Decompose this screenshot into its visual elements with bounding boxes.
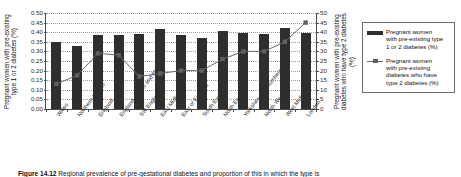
x-tick-mark — [274, 109, 275, 112]
y-tick-label-left: 0.25 — [31, 58, 43, 64]
y-tick-label-left: 0.20 — [31, 67, 43, 73]
figure-caption: Figure 14.12 Regional prevalence of pre-… — [18, 170, 448, 177]
line-marker — [117, 53, 121, 57]
chart-area: Pregnant women with pre-existing type 1 … — [0, 0, 461, 160]
x-tick-mark — [295, 109, 296, 112]
y-tick-label-left: 0.35 — [31, 39, 43, 45]
line-marker — [220, 57, 224, 61]
y-tick-label-left: 0.15 — [31, 77, 43, 83]
x-tick-mark — [88, 109, 89, 112]
y-tick-label-left: 0.05 — [31, 96, 43, 102]
x-tick-mark — [46, 109, 47, 112]
legend-item-label: Pregnant women with pre-existing type 1 … — [386, 28, 443, 50]
y-axis-title-right: Pregnant women with pre-existing diabete… — [333, 8, 355, 116]
line-marker — [200, 68, 204, 72]
x-tick-mark — [108, 109, 109, 112]
chart-legend: Pregnant women with pre-existing type 1 … — [362, 22, 455, 93]
legend-item-line: Pregnant women with pre-existing diabete… — [367, 57, 450, 86]
x-tick-mark — [67, 109, 68, 112]
y-tick-label-right: 10 — [320, 87, 327, 93]
line-marker — [137, 74, 141, 78]
line-path — [56, 23, 305, 84]
x-tick-mark — [212, 109, 213, 112]
legend-item-bar: Pregnant women with pre-existing type 1 … — [367, 28, 450, 50]
y-tick-label-right: 35 — [320, 39, 327, 45]
y-tick-label-right: 50 — [320, 10, 327, 16]
legend-bar-swatch-icon — [367, 28, 384, 40]
line-marker — [262, 49, 266, 53]
y-tick-label-right: 30 — [320, 48, 327, 54]
y-tick-label-left: 0.30 — [31, 48, 43, 54]
x-tick-mark — [171, 109, 172, 112]
y-tick-label-right: 45 — [320, 19, 327, 25]
y-tick-label-left: 0.40 — [31, 29, 43, 35]
y-tick-label-right: 0 — [320, 106, 323, 112]
x-tick-mark — [150, 109, 151, 112]
y-tick-label-right: 40 — [320, 29, 327, 35]
y-tick-label-right: 15 — [320, 77, 327, 83]
line-marker — [179, 68, 183, 72]
legend-item-label: Pregnant women with pre-existing diabete… — [386, 57, 439, 86]
y-axis-title-left: Pregnant women with pre-existing type 1 … — [3, 8, 18, 116]
line-marker — [158, 71, 162, 75]
line-marker — [283, 40, 287, 44]
y-tick-label-left: 0.45 — [31, 19, 43, 25]
y-tick-label-right: 25 — [320, 58, 327, 64]
x-tick-mark — [191, 109, 192, 112]
figure-number: Figure 14.12 — [18, 170, 56, 177]
line-marker — [303, 20, 307, 24]
line-marker — [75, 73, 79, 77]
figure-caption-text: Regional prevalence of pre-gestational d… — [56, 170, 319, 177]
y-tick-label-left: 0.50 — [31, 10, 43, 16]
x-tick-mark — [254, 109, 255, 112]
line-marker — [54, 82, 58, 86]
line-marker — [241, 49, 245, 53]
y-tick-label-right: 20 — [320, 67, 327, 73]
y-tick-label-left: 0.00 — [31, 106, 43, 112]
y-tick-label-left: 0.10 — [31, 87, 43, 93]
legend-line-marker-swatch-icon — [367, 57, 384, 69]
x-tick-mark — [129, 109, 130, 112]
line-marker — [96, 51, 100, 55]
plot-area: 0.000.050.100.150.200.250.300.350.400.45… — [45, 13, 317, 110]
figure-container: Pregnant women with pre-existing type 1 … — [0, 0, 461, 177]
